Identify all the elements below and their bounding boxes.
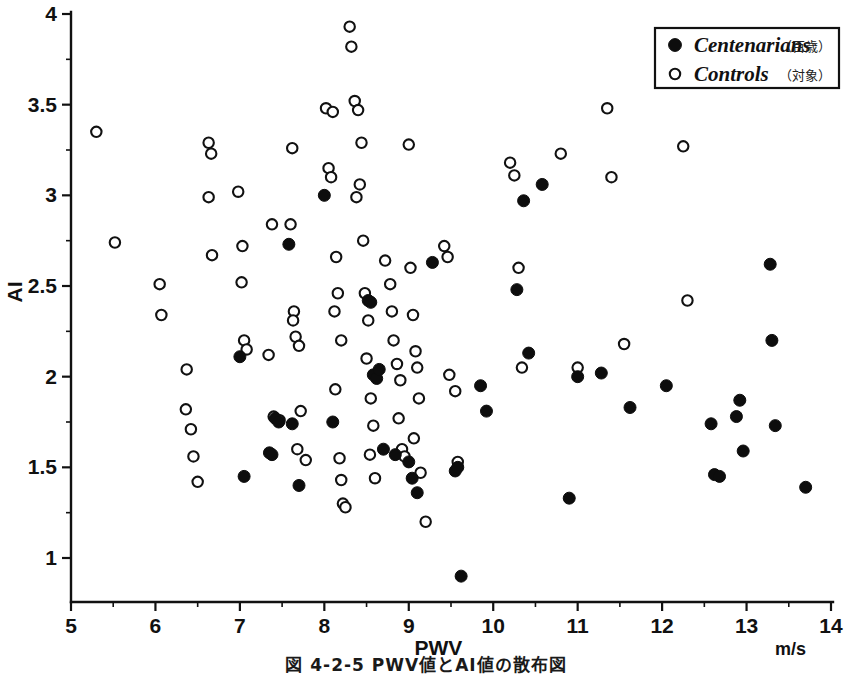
data-point-control [110, 237, 120, 247]
data-point-centenarian [426, 256, 438, 268]
scatter-plot-canvas: 11.522.533.54567891011121314AIPWVm/s Cen… [0, 0, 852, 678]
data-point-centenarian [769, 420, 781, 432]
data-point-centenarian [766, 334, 778, 346]
data-point-control [206, 148, 216, 158]
data-point-control [682, 295, 692, 305]
y-tick-label: 3 [45, 183, 57, 206]
data-point-control [287, 143, 297, 153]
data-point-centenarian [318, 189, 330, 201]
data-point-control [285, 219, 295, 229]
data-point-centenarian [536, 178, 548, 190]
data-point-control [351, 192, 361, 202]
legend-entry-note: （百歳） [779, 39, 831, 54]
data-point-control [344, 21, 354, 31]
data-point-control [439, 241, 449, 251]
data-point-control [203, 138, 213, 148]
data-point-centenarian [800, 481, 812, 493]
data-point-control [294, 341, 304, 351]
data-point-control [328, 107, 338, 117]
data-point-centenarian [452, 461, 464, 473]
data-point-control [156, 310, 166, 320]
data-point-control [207, 250, 217, 260]
data-point-control [602, 103, 612, 113]
data-point-centenarian [286, 418, 298, 430]
data-point-centenarian [624, 401, 636, 413]
data-point-control [513, 263, 523, 273]
data-point-control [606, 172, 616, 182]
data-point-control [412, 362, 422, 372]
x-tick-label: 5 [65, 614, 77, 637]
data-point-control [366, 393, 376, 403]
data-point-control [181, 404, 191, 414]
y-tick-label: 2.5 [28, 274, 58, 297]
data-point-control [186, 424, 196, 434]
legend-entry-label: Controls [694, 62, 769, 86]
data-point-centenarian [411, 487, 423, 499]
data-point-control [509, 170, 519, 180]
y-tick-label: 1 [45, 546, 57, 569]
data-point-control [292, 444, 302, 454]
data-point-control [267, 219, 277, 229]
data-point-centenarian [293, 479, 305, 491]
data-point-control [340, 502, 350, 512]
data-point-centenarian [266, 449, 278, 461]
x-tick-label: 10 [482, 614, 505, 637]
data-point-control [326, 172, 336, 182]
data-point-centenarian [238, 470, 250, 482]
data-point-centenarian [480, 405, 492, 417]
data-point-control [91, 127, 101, 137]
data-point-centenarian [283, 238, 295, 250]
data-point-control [295, 406, 305, 416]
data-point-control [329, 306, 339, 316]
data-point-control [420, 517, 430, 527]
data-point-centenarian [403, 456, 415, 468]
data-point-centenarian [373, 363, 385, 375]
data-point-control [203, 192, 213, 202]
data-point-centenarian [455, 570, 467, 582]
legend-marker-filled-circle-icon [669, 39, 682, 52]
figure-caption: 図 4-2-5 PWV値とAI値の散布図 [0, 650, 852, 678]
data-point-centenarian [389, 449, 401, 461]
x-tick-label: 8 [318, 614, 330, 637]
data-point-control [356, 138, 366, 148]
data-point-centenarian [572, 371, 584, 383]
legend-entry-note: （対象） [779, 68, 831, 83]
data-point-control [678, 141, 688, 151]
data-point-centenarian [377, 443, 389, 455]
data-point-control [385, 279, 395, 289]
y-tick-label: 3.5 [28, 93, 58, 116]
y-tick-label: 1.5 [28, 455, 58, 478]
data-point-control [233, 187, 243, 197]
data-point-control [331, 252, 341, 262]
data-point-control [236, 277, 246, 287]
y-tick-label: 2 [45, 365, 57, 388]
y-axis-title: AI [3, 282, 26, 303]
x-tick-label: 6 [150, 614, 162, 637]
data-point-centenarian [511, 284, 523, 296]
x-tick-label: 9 [403, 614, 415, 637]
data-point-control [336, 475, 346, 485]
data-point-control [181, 364, 191, 374]
data-points [91, 21, 812, 582]
data-point-control [336, 335, 346, 345]
data-point-control [395, 375, 405, 385]
data-point-control [237, 241, 247, 251]
data-point-centenarian [365, 296, 377, 308]
data-point-control [408, 310, 418, 320]
data-point-control [154, 279, 164, 289]
data-point-control [393, 413, 403, 423]
data-point-centenarian [764, 258, 776, 270]
data-point-control [358, 235, 368, 245]
data-point-control [404, 139, 414, 149]
data-point-control [368, 420, 378, 430]
data-point-centenarian [660, 380, 672, 392]
data-point-control [392, 359, 402, 369]
x-tick-label: 7 [234, 614, 246, 637]
data-point-centenarian [737, 445, 749, 457]
data-point-control [353, 105, 363, 115]
data-point-control [387, 306, 397, 316]
data-point-centenarian [234, 351, 246, 363]
x-tick-label: 11 [567, 614, 590, 637]
data-point-control [517, 362, 527, 372]
data-point-control [334, 453, 344, 463]
